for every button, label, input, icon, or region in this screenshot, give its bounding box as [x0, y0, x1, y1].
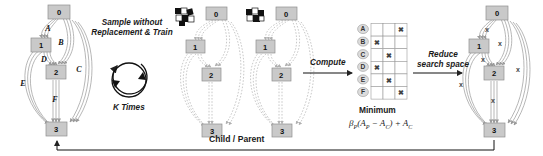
- compute-matrix: A B C D E F: [358, 24, 407, 100]
- formula-close: ) + A: [389, 118, 408, 128]
- reduce-line-1: Reduce: [413, 50, 473, 60]
- sample-line-1: Sample without: [88, 18, 176, 28]
- k-times-circle: [112, 63, 146, 97]
- feedback-loop-path: [57, 140, 494, 150]
- child-parent-label: Child / Parent: [209, 134, 264, 144]
- graph2-node-1: 1: [186, 40, 205, 53]
- formula-minus: − A: [369, 118, 385, 128]
- graph1-edge-label-c: C: [76, 65, 82, 74]
- node-label: 0: [214, 10, 218, 19]
- graph4-edge-mark-3: x: [516, 66, 520, 73]
- diagram-svg: 0 1 2 3 A B C D E F: [0, 0, 543, 156]
- graph-panel-full-search-space: 0 1 2 3 A B C D E F: [19, 5, 92, 136]
- minimum-formula: βP(AP − AC) + AC: [349, 118, 412, 130]
- matrix-mark-e2: ✖: [386, 77, 392, 84]
- node-label: 2: [279, 71, 283, 80]
- graph1-node-1: 1: [31, 38, 51, 52]
- node-label: 2: [209, 71, 213, 80]
- node-label: 3: [54, 125, 58, 134]
- node-label: 2: [492, 69, 496, 78]
- graph1-edge-label-d: D: [40, 55, 47, 64]
- sample-line-2: Replacement & Train: [88, 28, 176, 38]
- matrix-row-label-f: F: [361, 88, 365, 95]
- graph1-edge-label-a: A: [44, 24, 51, 33]
- checkered-blocks-icon-2: [246, 8, 264, 22]
- matrix-mark-a3: ✖: [398, 26, 404, 33]
- graph3-node-2: 2: [272, 68, 291, 81]
- graph1-edge-label-b: B: [57, 38, 64, 47]
- graph1-node-2: 2: [46, 65, 66, 79]
- formula-open: (A: [357, 118, 366, 128]
- compute-label: Compute: [310, 58, 345, 67]
- node-label: 0: [57, 8, 61, 17]
- graph4-edge-mark-5: x: [459, 81, 463, 88]
- graph-panel-reduced-search-space: 0 1 2 3 x x x x x x: [459, 6, 530, 137]
- graph4-edge-mark-1: x: [485, 26, 489, 33]
- reduce-line-2: search space: [413, 60, 473, 70]
- matrix-row-label-b: B: [361, 38, 366, 45]
- graph2-node-2: 2: [202, 68, 221, 81]
- graph3-node-1: 1: [256, 40, 275, 53]
- checkered-blocks-icon-1: [175, 8, 194, 26]
- matrix-row-labels: A B C D E F: [358, 24, 369, 96]
- node-label: 2: [54, 68, 58, 77]
- sample-annotation: Sample without Replacement & Train: [88, 18, 176, 38]
- matrix-mark-d1: ✖: [374, 64, 380, 71]
- graph4-node-3: 3: [484, 123, 505, 137]
- graph4-edge-mark-2: x: [498, 40, 502, 47]
- matrix-mark-b1: ✖: [374, 39, 380, 46]
- graph4-node-0: 0: [486, 6, 508, 20]
- matrix-mark-c2: ✖: [386, 52, 392, 59]
- graph4-node-2: 2: [484, 66, 504, 80]
- reduce-annotation: Reduce search space: [413, 50, 473, 70]
- graph1-node-3: 3: [46, 122, 67, 136]
- node-label: 0: [284, 10, 288, 19]
- node-label: 3: [492, 126, 496, 135]
- graph-panel-sampled-2: 0 1 2 3: [251, 7, 314, 137]
- matrix-row-label-a: A: [361, 25, 366, 32]
- graph2-node-0: 0: [206, 7, 227, 20]
- graph4-edge-mark-4: x: [481, 56, 485, 63]
- matrix-grid: [371, 24, 407, 100]
- graph3-node-0: 0: [276, 7, 297, 20]
- minimum-label: Minimum: [359, 105, 396, 115]
- graph1-node-0: 0: [48, 5, 70, 19]
- graph3-node-3: 3: [272, 124, 292, 137]
- formula-final-sub: C: [408, 124, 412, 130]
- node-label: 3: [280, 127, 284, 136]
- graph4-edge-mark-6: x: [491, 97, 495, 104]
- matrix-row-label-e: E: [361, 76, 366, 83]
- matrix-mark-f3: ✖: [398, 89, 404, 96]
- node-label: 0: [495, 9, 499, 18]
- matrix-row-label-d: D: [361, 63, 366, 70]
- diagram-canvas: 0 1 2 3 A B C D E F: [0, 0, 543, 156]
- matrix-row-label-c: C: [361, 51, 366, 58]
- graph1-edge-label-e: E: [19, 79, 25, 88]
- k-times-label: K Times: [113, 103, 145, 112]
- graph-panel-sampled-1: 0 1 2 3: [181, 7, 244, 137]
- graph1-edge-label-f: F: [51, 95, 58, 104]
